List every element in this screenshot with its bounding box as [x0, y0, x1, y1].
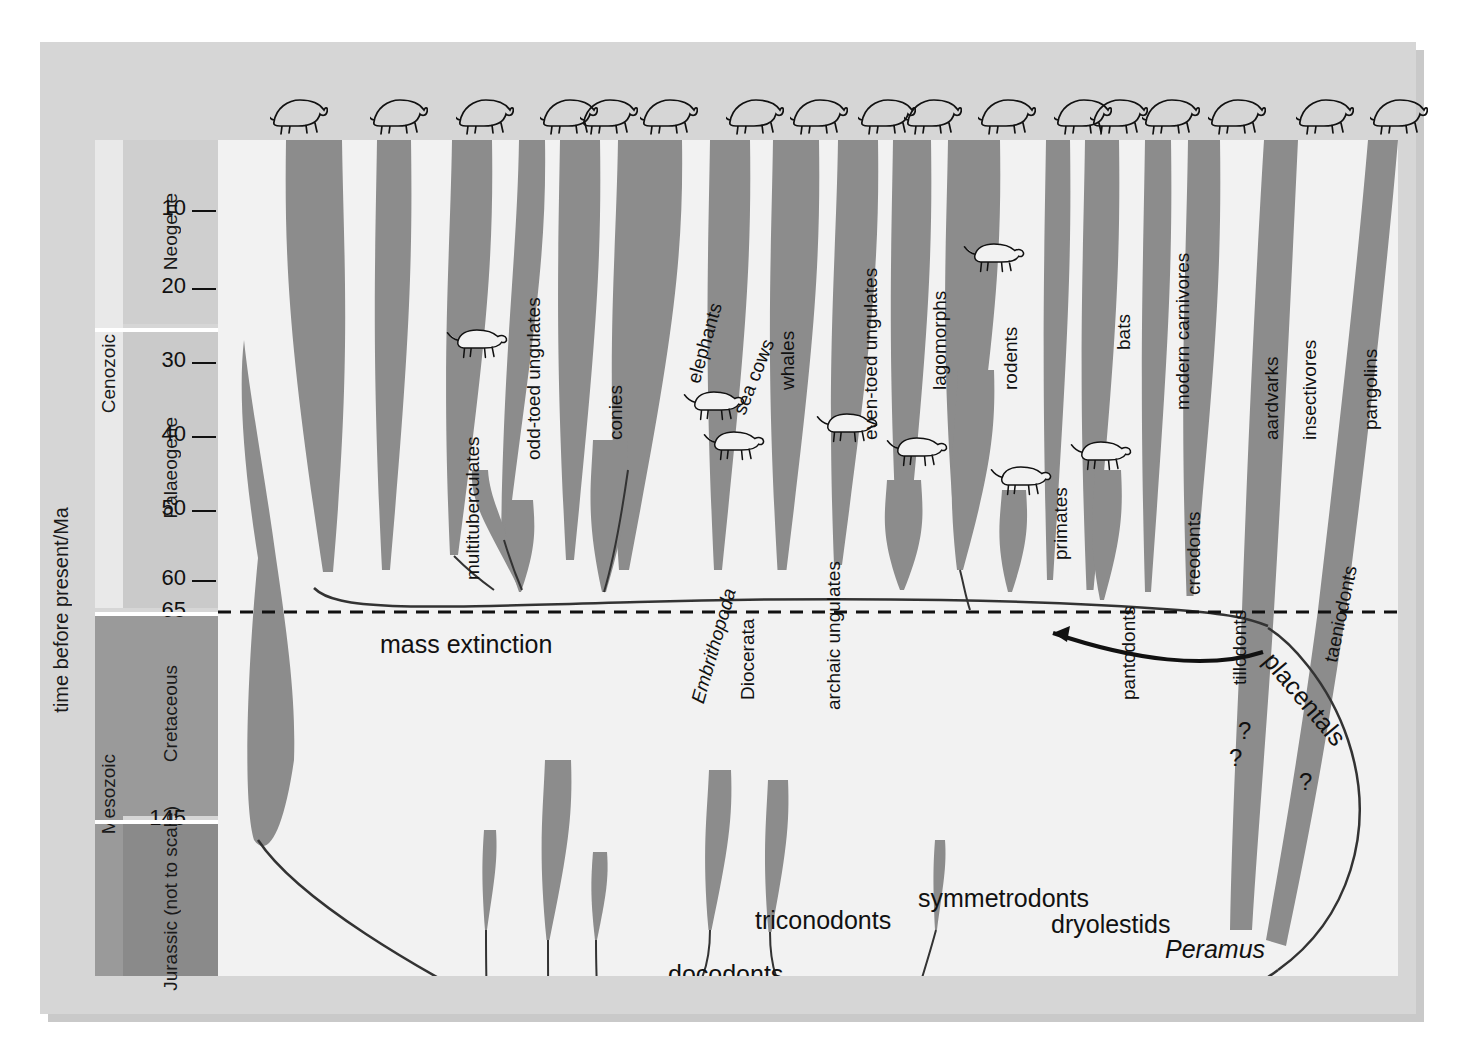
clade-label-insectivores: insectivores	[1300, 340, 1319, 440]
axis-tick-10: 10	[128, 195, 186, 221]
axis-tick-65: 65	[128, 597, 186, 623]
stem-morganucodont	[596, 940, 600, 976]
clade-label-even-toed-ungulates: even-toed ungulates	[861, 268, 880, 440]
period-separator	[95, 612, 218, 616]
clade-ribbons	[242, 140, 1398, 946]
stem-docodont	[486, 930, 488, 976]
period-separator	[95, 820, 218, 824]
figure-root: time before present/Ma CenozoicMesozoic …	[0, 0, 1457, 1052]
clade-label-symmetrodonts: symmetrodonts	[918, 886, 1089, 911]
clade-label-odd-toed-ungulates: odd-toed ungulates	[524, 297, 543, 460]
animal-icon-strip	[218, 80, 1398, 140]
y-axis-title: time before present/Ma	[44, 440, 78, 780]
bison-icon	[640, 92, 698, 140]
ribbon-diocerata	[506, 500, 535, 592]
clade-label-modern-carnivores: modern carnivores	[1173, 253, 1192, 410]
ribbon-marsupials	[1230, 140, 1298, 930]
period-band-jurassic: Jurassic (not to scale)	[123, 820, 218, 976]
stem-carnivore-base	[960, 570, 970, 610]
ribbon-morganucodonts	[591, 852, 607, 940]
clade-label-pangolins: pangolins	[1361, 349, 1380, 430]
rabbit-icon	[726, 92, 784, 140]
whale-icon	[580, 92, 638, 140]
ribbon-docodonts	[482, 830, 496, 930]
period-band-label: Jurassic (not to scale)	[160, 806, 182, 991]
clade-label-rodents: rodents	[1001, 327, 1020, 390]
mass-extinction-label: mass extinction	[380, 630, 552, 659]
axis-tick-145: 145	[128, 805, 186, 831]
clade-label-conies: conies	[606, 385, 625, 440]
ribbon-pangolins	[1142, 140, 1172, 592]
kangaroo-icon	[1296, 92, 1354, 140]
ribbon-lagomorphs	[708, 140, 751, 570]
mouse-icon	[790, 92, 848, 140]
clade-label-diocerata: Diocerata	[738, 619, 757, 700]
era-band-label: Cenozoic	[98, 334, 120, 413]
hyrax-icon	[370, 92, 428, 140]
placentals-arrowhead	[1053, 626, 1070, 642]
axis-tickline-20	[192, 288, 216, 290]
phylogeny-svg	[218, 140, 1398, 976]
axis-tick-50: 50	[128, 495, 186, 521]
axis-tick-20: 20	[128, 273, 186, 299]
rhinoceros-icon	[270, 92, 328, 140]
clade-label-docodonts: docodonts	[668, 962, 783, 976]
period-band-label: Cretaceous	[160, 665, 182, 762]
bat-icon	[904, 92, 962, 140]
uncertainty-mark: ?	[1238, 717, 1251, 745]
ribbon-multituberculates	[242, 340, 295, 846]
ribbon-creodonts	[952, 370, 995, 570]
clade-label-multituberculates: multituberculates	[463, 436, 482, 580]
clade-label-bats: bats	[1114, 314, 1133, 350]
clade-label-tillodonts: tillodonts	[1230, 610, 1249, 685]
era-band-mesozoic: Mesozoic	[95, 612, 123, 976]
uncertainty-mark: ?	[1299, 768, 1312, 796]
stem-triconodont	[548, 940, 550, 976]
armadillo-icon	[1208, 92, 1266, 140]
clade-label-peramus: Peramus	[1165, 937, 1265, 962]
pangolin-icon	[1142, 92, 1200, 140]
echidna-icon	[1370, 92, 1428, 140]
stem-mammal-root	[258, 840, 638, 976]
aardvark-icon	[1090, 92, 1148, 140]
era-column: CenozoicMesozoic	[95, 140, 123, 976]
ribbon-pantodonts	[885, 480, 923, 590]
axis-tick-40: 40	[128, 421, 186, 447]
ribbon-odd-toed-ungulates	[286, 140, 346, 572]
clade-label-pantodonts: pantodonts	[1119, 606, 1138, 700]
cat-icon	[978, 92, 1036, 140]
axis-tick-30: 30	[128, 347, 186, 373]
era-band-cenozoic: Cenozoic	[95, 140, 123, 608]
clade-label-creodonts: creodonts	[1184, 512, 1203, 595]
clade-label-archaic-ungulates: archaic ungulates	[824, 561, 843, 710]
clade-label-lagomorphs: lagomorphs	[930, 291, 949, 390]
axis-tickline-30	[192, 362, 216, 364]
clade-label-triconodonts: triconodonts	[755, 908, 891, 933]
period-column: NeogenePalaeogeneCretaceousJurassic (not…	[123, 140, 218, 976]
axis-tickline-60	[192, 580, 216, 582]
ribbon-triconodonts	[542, 760, 572, 940]
axis-tickline-50	[192, 510, 216, 512]
ribbon-taeniodonts	[1092, 470, 1122, 600]
clade-label-primates: primates	[1051, 487, 1070, 560]
ribbon-conies	[375, 140, 412, 570]
axis-tickline-10	[192, 210, 216, 212]
clade-label-dryolestids: dryolestids	[1051, 912, 1171, 937]
stem-peramus	[908, 930, 936, 976]
axis-tickline-40	[192, 436, 216, 438]
period-separator	[95, 328, 218, 332]
period-band-cretaceous: Cretaceous	[123, 612, 218, 816]
ribbon-tillodonts	[999, 490, 1027, 592]
uncertainty-mark: ?	[1229, 744, 1242, 772]
elephant-icon	[456, 92, 514, 140]
ribbon-symmetrodonts	[705, 770, 731, 930]
clade-label-aardvarks: aardvarks	[1262, 357, 1281, 440]
axis-tick-60: 60	[128, 565, 186, 591]
y-axis-title-text: time before present/Ma	[50, 507, 73, 713]
phylogeny-plot: multituberculatesodd-toed ungulatesconie…	[218, 140, 1398, 976]
clade-label-whales: whales	[778, 331, 797, 390]
